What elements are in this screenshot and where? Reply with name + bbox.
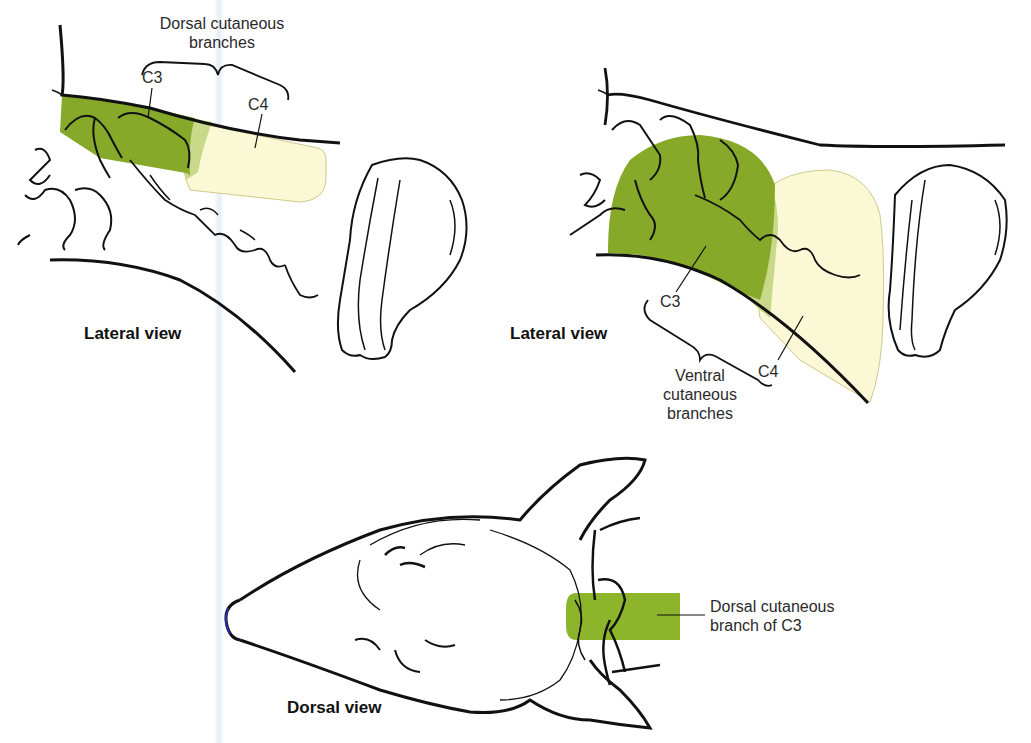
lateral-view-right <box>570 68 1007 403</box>
c3-dorsal-region <box>60 95 195 175</box>
dorsal-view-label: Dorsal view <box>287 698 382 717</box>
lateral-view-label-left: Lateral view <box>84 324 181 343</box>
dorsal-c3-callout: Dorsal cutaneous branch of C3 <box>710 597 835 635</box>
ventral-branches-label: Ventral cutaneous branches <box>640 366 760 423</box>
c3-label-right: C3 <box>660 292 680 311</box>
lateral-view-left <box>18 25 467 372</box>
c4-label-right: C4 <box>758 362 778 381</box>
c4-label-left: C4 <box>248 95 268 114</box>
dorsal-view <box>226 458 705 728</box>
lateral-view-label-right: Lateral view <box>510 324 607 343</box>
dorsal-branches-label: Dorsal cutaneous branches <box>140 14 304 52</box>
c3-dorsal-band <box>566 593 680 640</box>
cervical-dermatome-diagram <box>0 0 1031 743</box>
c3-label-left: C3 <box>142 68 162 87</box>
c3-ventral-region <box>608 135 775 300</box>
